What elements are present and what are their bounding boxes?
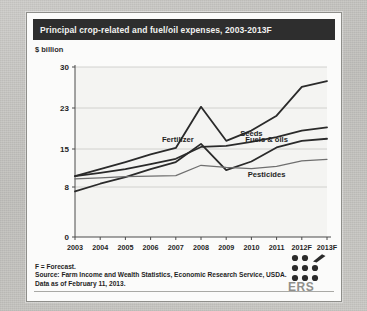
chart-footnotes: F = Forecast. Source: Farm Income and We…: [35, 263, 275, 288]
svg-text:8: 8: [65, 183, 70, 192]
svg-text:Pesticides: Pesticides: [248, 170, 286, 179]
svg-text:Fuels & oils: Fuels & oils: [245, 135, 288, 144]
svg-text:2013F: 2013F: [317, 243, 338, 252]
svg-text:23: 23: [60, 104, 69, 113]
ers-logo: ERS: [286, 253, 332, 293]
svg-text:2006: 2006: [143, 243, 159, 252]
svg-text:Fertilizer: Fertilizer: [162, 135, 194, 144]
footnote-data-date: Data as of February 11, 2013.: [35, 280, 275, 288]
ers-logo-text: ERS: [288, 280, 314, 294]
svg-text:2004: 2004: [92, 243, 108, 252]
svg-text:2007: 2007: [168, 243, 184, 252]
svg-text:2012F: 2012F: [292, 243, 313, 252]
footnote-source: Source: Farm Income and Wealth Statistic…: [35, 271, 275, 279]
page-background: Principal crop-related and fuel/oil expe…: [0, 0, 367, 311]
ers-dot-grid-icon: [290, 253, 332, 283]
svg-text:2003: 2003: [67, 243, 83, 252]
svg-text:30: 30: [60, 63, 69, 72]
svg-text:2009: 2009: [218, 243, 234, 252]
svg-text:2005: 2005: [117, 243, 133, 252]
footnote-forecast: F = Forecast.: [35, 263, 275, 271]
svg-text:15: 15: [60, 145, 69, 154]
svg-text:2008: 2008: [193, 243, 209, 252]
chart-card: Principal crop-related and fuel/oil expe…: [26, 12, 342, 302]
svg-text:2011: 2011: [269, 243, 285, 252]
svg-text:2010: 2010: [243, 243, 259, 252]
svg-text:0: 0: [65, 233, 70, 242]
